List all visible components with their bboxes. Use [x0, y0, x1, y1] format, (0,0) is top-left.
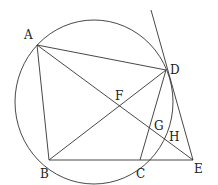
label-f: F	[115, 89, 123, 103]
circumcircle	[15, 20, 173, 184]
label-e: E	[194, 162, 203, 176]
segment-bd	[49, 70, 166, 160]
segment-ab	[37, 45, 49, 160]
segment-cd	[140, 70, 166, 160]
label-a: A	[23, 28, 33, 42]
label-g: G	[154, 119, 164, 133]
label-d: D	[170, 63, 180, 77]
label-h: H	[169, 130, 179, 144]
label-c: C	[136, 167, 145, 181]
segment-ad	[37, 45, 166, 70]
geometry-diagram: A B C D E F G H	[0, 0, 218, 185]
label-b: B	[40, 167, 49, 181]
